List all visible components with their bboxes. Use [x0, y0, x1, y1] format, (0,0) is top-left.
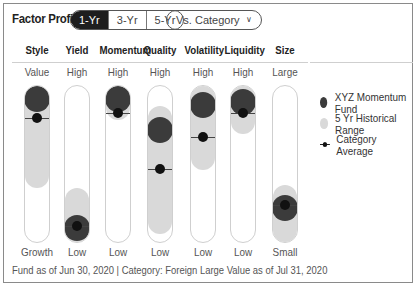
fund-dot-icon [320, 97, 328, 108]
factor-top-label: High [99, 66, 137, 78]
chevron-down-icon: ∨ [246, 11, 252, 29]
factor-top-label: High [58, 66, 96, 78]
factor-top-label: High [184, 66, 222, 78]
factor-name: Liquidity [225, 44, 262, 56]
factor-bottom-label: Growth [18, 246, 56, 258]
chart-legend: XYZ Momentum Fund 5 Yr Historical Range … [320, 92, 419, 155]
factor-top-label: High [224, 66, 262, 78]
factor-bottom-label: Low [99, 246, 137, 258]
factor-track [190, 85, 216, 243]
factor-bottom-label: Low [141, 246, 179, 258]
category-average-dot [155, 164, 165, 174]
factor-top-label: Value [18, 66, 56, 78]
factor-bottom-label: Low [58, 246, 96, 258]
factor-track [64, 85, 90, 243]
factor-track [147, 85, 173, 243]
factor-bottom-label: Low [184, 246, 222, 258]
compare-dropdown-label: Vs. Category [176, 11, 240, 29]
period-1yr-button[interactable]: 1-Yr [71, 11, 108, 29]
factor-name: Volatility [185, 44, 222, 56]
factor-top-label: High [141, 66, 179, 78]
factor-name: Quality [142, 44, 179, 56]
range-dot-icon [320, 118, 328, 129]
factor-track [105, 85, 131, 243]
factor-top-label: Large [266, 66, 304, 78]
fund-marker [24, 86, 50, 112]
factor-track [230, 85, 256, 243]
factor-column-liquidity: LiquidityHighLow [222, 44, 264, 56]
category-average-dot [72, 221, 82, 231]
legend-item-range: 5 Yr Historical Range [320, 113, 409, 134]
compare-dropdown[interactable]: Vs. Category ∨ [166, 10, 262, 30]
fund-marker [190, 92, 216, 118]
factor-name: Momentum [100, 44, 137, 56]
factor-column-quality: QualityHighLow [139, 44, 181, 56]
legend-divider [310, 62, 413, 63]
footnote: Fund as of Jun 30, 2020 | Category: Fore… [12, 264, 327, 276]
legend-item-fund: XYZ Momentum Fund [320, 92, 409, 113]
factor-track [24, 85, 50, 243]
factor-name: Style [19, 44, 56, 56]
header-divider [12, 62, 308, 63]
factor-column-volatility: VolatilityHighLow [182, 44, 224, 56]
factor-track [272, 85, 298, 243]
factor-bottom-label: Low [224, 246, 262, 258]
factor-column-style: StyleValueGrowth [16, 44, 58, 56]
factor-name: Yield [59, 44, 96, 56]
factor-column-momentum: MomentumHighLow [97, 44, 139, 56]
average-marker-icon [320, 139, 329, 150]
factor-bottom-label: Small [266, 246, 304, 258]
factor-column-size: SizeLargeSmall [264, 44, 306, 56]
period-3yr-button[interactable]: 3-Yr [108, 11, 146, 29]
factor-name: Size [267, 44, 304, 56]
factor-column-yield: YieldHighLow [56, 44, 98, 56]
legend-item-average: Category Average [320, 134, 409, 155]
